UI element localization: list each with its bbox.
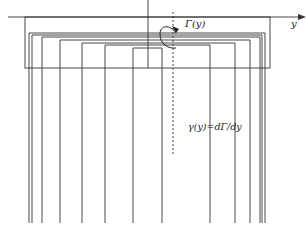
- circulation-label: Γ(y): [185, 18, 205, 29]
- y-axis-label: y: [291, 18, 297, 29]
- vortex-density-label: γ(y)=dΓ/dy: [188, 121, 242, 132]
- wing-planform: [25, 17, 270, 68]
- horseshoe-vortex: [105, 45, 210, 223]
- y-axis-arrow-icon: [298, 14, 306, 20]
- horseshoe-vortex: [133, 48, 162, 223]
- horseshoe-vortex-diagram: [0, 0, 308, 235]
